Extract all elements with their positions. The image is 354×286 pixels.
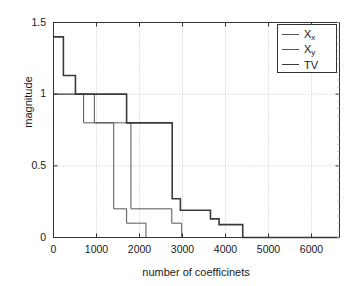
legend-label: Xx [304,28,315,42]
legend-label-subscript: x [311,33,315,42]
legend-entry: Xx [282,27,336,42]
figure-container: magnitude number of coefficinets 00.511.… [0,0,354,286]
y-tick-label: 0 [0,231,46,243]
legend-label-subscript: y [311,48,315,57]
y-tick-label: 0.5 [0,159,46,171]
legend-label: TV [304,59,318,71]
y-axis-label: magnitude [22,52,34,152]
y-tick-label: 1 [0,87,46,99]
x-axis-label: number of coefficinets [53,266,339,278]
legend-swatch-line [282,34,299,35]
legend-entry: Xy [282,42,336,57]
legend-label: Xy [304,43,315,57]
y-tick-label: 1.5 [0,16,46,28]
legend: XxXyTV [277,24,337,73]
x-tick-label: 6000 [287,243,337,255]
legend-swatch-line [282,49,299,50]
legend-swatch-line [282,64,299,65]
legend-entry: TV [282,57,336,72]
